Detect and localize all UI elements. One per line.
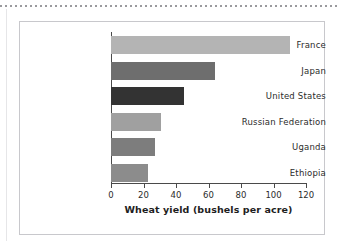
category-label-russian-federation: Russian Federation [241,117,326,127]
category-label-japan: Japan [241,66,326,76]
bar-united-states[interactable] [111,87,184,105]
left-margin-rule [6,9,7,241]
x-tick-mark-100 [274,184,275,188]
bar-japan[interactable] [111,62,215,80]
bar-russian-federation[interactable] [111,113,161,131]
x-tick-mark-20 [144,184,145,188]
x-tick-mark-60 [209,184,210,188]
x-tick-mark-40 [176,184,177,188]
x-tick-label-120: 120 [291,190,321,200]
figure-page: Wheat yield (bushels per acre) FranceJap… [0,0,338,247]
x-tick-label-20: 20 [129,190,159,200]
bar-uganda[interactable] [111,138,155,156]
y-axis-spine [111,32,112,183]
x-tick-label-40: 40 [161,190,191,200]
category-label-france: France [241,40,326,50]
bar-chart-plot: Wheat yield (bushels per acre) FranceJap… [20,22,326,236]
x-tick-label-60: 60 [194,190,224,200]
category-label-ethiopia: Ethiopia [241,168,326,178]
x-tick-mark-0 [111,184,112,188]
x-tick-mark-80 [241,184,242,188]
x-axis-title: Wheat yield (bushels per acre) [91,204,326,215]
x-tick-label-0: 0 [96,190,126,200]
chart-frame: Wheat yield (bushels per acre) FranceJap… [19,21,325,235]
category-label-uganda: Uganda [241,142,326,152]
bar-ethiopia[interactable] [111,164,148,182]
x-tick-mark-120 [306,184,307,188]
top-dotted-rule [0,5,338,7]
x-tick-label-80: 80 [226,190,256,200]
category-label-united-states: United States [241,91,326,101]
x-tick-label-100: 100 [259,190,289,200]
